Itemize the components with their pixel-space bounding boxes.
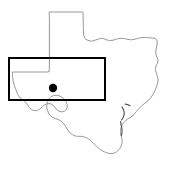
texas-state-outline bbox=[12, 12, 158, 154]
gulf-coast-detail-group bbox=[121, 104, 130, 135]
map-canvas bbox=[0, 0, 171, 171]
gulf-coast-detail-stroke bbox=[125, 104, 130, 106]
texas-map-figure bbox=[0, 0, 171, 171]
study-area-bounding-box bbox=[9, 58, 105, 100]
gulf-coast-detail-stroke bbox=[122, 107, 125, 120]
site-location-dot bbox=[49, 84, 57, 92]
